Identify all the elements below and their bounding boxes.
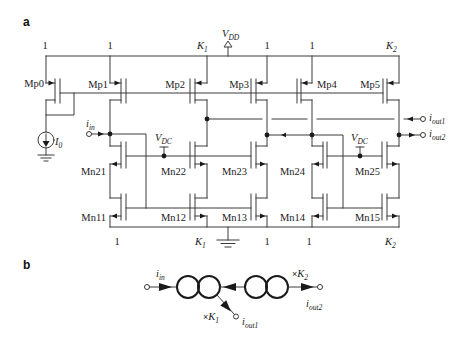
- mirror-circle: [245, 276, 267, 298]
- transistor-mp5-icon: [383, 79, 399, 103]
- top-ratio-mp2: K1: [196, 40, 208, 54]
- output2-terminal: [421, 133, 426, 138]
- bottom-ratio-mn12: K1: [194, 236, 206, 250]
- label-mp5: Mp5: [360, 79, 380, 90]
- ratio-main: 1: [114, 236, 119, 247]
- block-gain2-label: ×K2: [292, 268, 308, 282]
- ratio-main: 1: [107, 40, 112, 51]
- transistor-mn23-icon: [251, 142, 267, 168]
- panel-a-schematic: VDD 1 1 K1 1 1 K2: [24, 28, 445, 250]
- mirror-symbol-2-icon: [245, 276, 288, 298]
- block-gain1-label: ×K1: [203, 311, 219, 325]
- ratio-sub: 2: [393, 45, 397, 54]
- label-mn13: Mn13: [222, 212, 247, 223]
- block-output1-label: iout1: [242, 316, 258, 330]
- label-mn25: Mn25: [355, 166, 380, 177]
- transistor-mp1-icon: [110, 79, 126, 103]
- ratio-sub: 1: [202, 241, 206, 250]
- output2-label-sub: out2: [432, 133, 446, 142]
- source-arrow-icon: [200, 213, 206, 218]
- vdc-right-label: VDC: [351, 132, 369, 146]
- panel-a-label: a: [23, 15, 30, 29]
- transistors: [46, 79, 399, 220]
- input-terminal: [87, 132, 92, 137]
- top-ratio-mp5: K2: [385, 40, 397, 54]
- bottom-ratio-mn15: K2: [384, 236, 396, 250]
- label-mn22: Mn22: [161, 166, 186, 177]
- panel-b-label: b: [23, 258, 30, 272]
- label-mp2: Mp2: [165, 79, 185, 90]
- panel-b-block-diagram: iin ×K2 iout2 ×K1 iout1: [145, 268, 323, 330]
- bottom-ratio-mn11: 1: [114, 236, 119, 247]
- junction-dot: [358, 154, 363, 159]
- ratio-sub: 1: [204, 45, 208, 54]
- source-arrow-icon: [257, 80, 263, 85]
- ratio-sub: 2: [392, 241, 396, 250]
- junction-dot: [205, 117, 210, 122]
- vdc-label-sub: DC: [160, 137, 172, 146]
- output1-arrow-icon: [407, 117, 413, 122]
- transistor-mp4-icon: [297, 79, 312, 103]
- input-arrow-icon: [98, 132, 104, 137]
- ratio-main: 1: [264, 236, 269, 247]
- transistor-mn13-icon: [251, 194, 267, 220]
- transistor-mn25-icon: [382, 142, 399, 168]
- output1-terminal: [421, 117, 426, 122]
- label-mp4: Mp4: [317, 79, 338, 90]
- source-arrow-icon: [314, 213, 320, 218]
- output1-label-sub: out1: [432, 117, 445, 126]
- top-ratio-mp4: 1: [309, 40, 314, 51]
- source-arrow-icon: [392, 213, 398, 218]
- top-ratio-mp1: 1: [107, 40, 112, 51]
- ground-icon: [217, 227, 239, 247]
- transistor-mn12-icon: [190, 194, 207, 220]
- source-arrow-icon: [302, 80, 308, 85]
- block-output2-label-sub: out2: [309, 303, 323, 312]
- source-arrow-icon: [260, 161, 266, 166]
- input-label-sub: in: [89, 123, 95, 132]
- transistor-mp2-icon: [190, 79, 207, 103]
- top-ratio-mp3: 1: [264, 40, 269, 51]
- ratio-main: 1: [306, 236, 311, 247]
- label-mn21: Mn21: [81, 166, 106, 177]
- transistor-mn11-icon: [110, 194, 126, 220]
- vdd-label: VDD: [222, 28, 240, 42]
- block-input-label-sub: in: [159, 273, 165, 282]
- transistor-mn22-icon: [190, 142, 207, 168]
- source-arrow-icon: [392, 161, 398, 166]
- label-mp3: Mp3: [229, 79, 249, 90]
- i0-label-sub: 0: [59, 141, 63, 150]
- transistor-mn15-icon: [382, 194, 399, 220]
- wire-input-to-mirror-gate: [110, 134, 146, 208]
- bottom-ratio-mn14: 1: [306, 236, 311, 247]
- block-output2-label: iout2: [306, 298, 323, 312]
- transistor-mp3-icon: [251, 79, 267, 103]
- output2-arrow-icon: [409, 133, 415, 138]
- source-arrow-icon: [200, 161, 206, 166]
- vdd-label-sub: DD: [227, 33, 239, 42]
- source-arrow-icon: [388, 80, 394, 85]
- link-arrow-icon: [281, 133, 286, 137]
- gain-sub: 2: [304, 273, 308, 282]
- transistor-mn24-icon: [312, 142, 327, 168]
- block-input-terminal: [145, 285, 150, 290]
- label-mn23: Mn23: [222, 166, 247, 177]
- current-mirror-figure: a VDD 1 1 K1 1 1 K2: [0, 0, 470, 342]
- vdc-left-label: VDC: [155, 132, 173, 146]
- current-source-icon: [38, 132, 54, 161]
- transistor-mn21-icon: [110, 142, 126, 168]
- supply-rail: [46, 41, 399, 56]
- mirror-circle: [177, 276, 199, 298]
- output1-label: iout1: [429, 112, 445, 126]
- ratio-main: 1: [42, 40, 47, 51]
- block-input-label: iin: [156, 268, 165, 282]
- label-mn12: Mn12: [161, 212, 186, 223]
- source-arrow-icon: [314, 161, 320, 166]
- block-output2-arrow-icon: [301, 283, 314, 291]
- junction-dot: [310, 133, 315, 138]
- junction-dot: [108, 132, 113, 137]
- block-output1-terminal: [234, 314, 239, 319]
- current-source-arrow-icon: [43, 141, 50, 147]
- source-arrow-icon: [112, 161, 118, 166]
- source-arrow-icon: [49, 80, 55, 85]
